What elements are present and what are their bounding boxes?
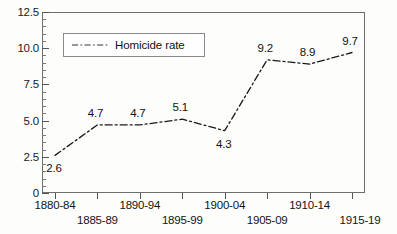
- x-axis-tick: [97, 193, 98, 199]
- y-axis-minor-tick: [42, 26, 46, 27]
- y-axis-major-tick: [42, 12, 49, 13]
- y-axis-minor-tick: [42, 128, 46, 129]
- legend-label: Homicide rate: [115, 39, 185, 51]
- y-axis-label: 7.5: [24, 78, 39, 90]
- y-axis-minor-tick: [42, 179, 46, 180]
- x-axis-label: 1915-19: [340, 214, 381, 226]
- y-axis-label: 5.0: [24, 115, 39, 127]
- y-axis-major-tick: [42, 48, 49, 49]
- x-axis-label: 1880-84: [35, 199, 76, 211]
- legend-line-sample: [72, 40, 108, 50]
- y-axis-label: 10.0: [17, 42, 39, 54]
- data-point-label: 2.6: [46, 162, 61, 174]
- x-axis-label: 1890-94: [119, 199, 160, 211]
- y-axis-minor-tick: [42, 34, 46, 35]
- y-axis-minor-tick: [42, 63, 46, 64]
- y-axis-minor-tick: [42, 135, 46, 136]
- y-axis-major-tick: [42, 157, 49, 158]
- data-point-label: 4.7: [88, 107, 103, 119]
- y-axis-minor-tick: [42, 99, 46, 100]
- x-axis-tick: [352, 193, 353, 199]
- x-axis-label: 1900-04: [204, 199, 245, 211]
- y-axis-minor-tick: [42, 92, 46, 93]
- data-point-label: 4.3: [216, 138, 231, 150]
- y-axis-minor-tick: [42, 113, 46, 114]
- y-axis-minor-tick: [42, 186, 46, 187]
- chart-legend: Homicide rate: [63, 33, 205, 57]
- data-point-label: 5.1: [173, 101, 188, 113]
- data-point-label: 4.7: [130, 107, 145, 119]
- y-axis-major-tick: [42, 193, 49, 194]
- data-point-label: 9.2: [257, 42, 272, 54]
- y-axis-minor-tick: [42, 70, 46, 71]
- homicide-rate-line-chart: 02.55.07.510.012.5 1880-841885-891890-94…: [0, 0, 397, 234]
- y-axis-label: 0: [33, 187, 39, 199]
- y-axis-minor-tick: [42, 55, 46, 56]
- y-axis-minor-tick: [42, 142, 46, 143]
- y-axis-label: 12.5: [17, 6, 39, 18]
- y-axis-minor-tick: [42, 106, 46, 107]
- x-axis-label: 1905-09: [247, 214, 288, 226]
- x-axis-tick: [267, 193, 268, 199]
- x-axis-tick: [182, 193, 183, 199]
- y-axis-minor-tick: [42, 150, 46, 151]
- y-axis-major-tick: [42, 121, 49, 122]
- y-axis-minor-tick: [42, 77, 46, 78]
- y-axis: 02.55.07.510.012.5: [0, 0, 39, 234]
- x-axis-label: 1895-99: [162, 214, 203, 226]
- x-axis-label: 1885-89: [77, 214, 118, 226]
- data-point-label: 8.9: [300, 46, 315, 58]
- y-axis-major-tick: [42, 84, 49, 85]
- x-axis-label: 1910-14: [289, 199, 330, 211]
- y-axis-minor-tick: [42, 41, 46, 42]
- y-axis-minor-tick: [42, 19, 46, 20]
- y-axis-label: 2.5: [24, 151, 39, 163]
- data-point-label: 9.7: [342, 35, 357, 47]
